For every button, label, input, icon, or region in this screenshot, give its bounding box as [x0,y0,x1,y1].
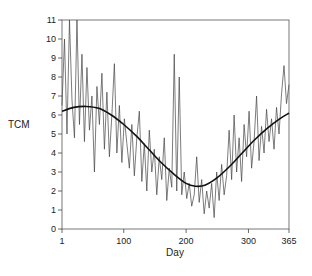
y-tick-label: 2 [51,186,56,196]
x-tick-label: 300 [241,236,256,246]
chart: 012345678910111100200300365 Day TCM [0,0,312,276]
ticks: 012345678910111100200300365 [46,15,297,246]
y-tick-label: 8 [51,72,56,82]
daily-series-line [62,20,289,218]
y-tick-label: 4 [51,148,56,158]
y-tick-label: 0 [51,224,56,234]
y-tick-label: 7 [51,91,56,101]
y-tick-label: 6 [51,110,56,120]
x-tick-label: 100 [116,236,131,246]
y-tick-label: 5 [51,129,56,139]
y-tick-label: 9 [51,53,56,63]
x-tick-label: 200 [179,236,194,246]
series-layer [62,20,289,218]
x-tick-label: 365 [281,236,296,246]
x-axis-title: Day [166,247,184,258]
y-tick-label: 10 [46,34,56,44]
y-tick-label: 11 [47,15,56,25]
x-tick-label: 1 [59,236,64,246]
y-tick-label: 3 [51,167,56,177]
y-axis-title: TCM [8,119,30,130]
y-tick-label: 1 [51,205,56,215]
